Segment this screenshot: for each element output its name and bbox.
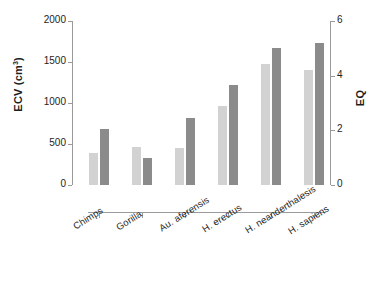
bar-ecv [218, 106, 227, 185]
bar-ecv [304, 70, 313, 185]
chart-figure: ECV (cm3) EQ 0500100015002000 0246 Chimp… [0, 0, 390, 305]
x-axis-category-label: H. neanderthalesis [243, 183, 318, 235]
y-axis-left-title: ECV (cm3) [12, 44, 25, 124]
bar-eq [186, 118, 195, 185]
y-axis-right-title: EQ [354, 78, 366, 118]
y-axis-left-tick [68, 103, 72, 104]
y-axis-left-tick [68, 144, 72, 145]
bar-ecv [89, 153, 98, 185]
y-axis-left-tick-label: 0 [26, 178, 66, 189]
y-axis-left-title-tail: ) [12, 57, 24, 61]
bar-ecv [132, 147, 141, 185]
y-axis-right-spine [330, 21, 331, 185]
y-axis-left-tick-label: 1500 [26, 55, 66, 66]
y-axis-right-tick [331, 185, 335, 186]
y-axis-left-tick-label: 500 [26, 137, 66, 148]
y-axis-right-tick [331, 130, 335, 131]
y-axis-right-tick [331, 21, 335, 22]
y-axis-left-title-superscript: 3 [12, 61, 19, 65]
bar-eq [272, 48, 281, 185]
y-axis-left-tick-label: 2000 [26, 14, 66, 25]
y-axis-left-tick [68, 185, 72, 186]
y-axis-right-tick-label: 2 [337, 123, 359, 134]
bar-eq [315, 43, 324, 185]
y-axis-left-tick-label: 1000 [26, 96, 66, 107]
y-axis-right-tick [331, 76, 335, 77]
y-axis-right-tick-label: 4 [337, 69, 359, 80]
bar-eq [143, 158, 152, 185]
bar-eq [100, 129, 109, 185]
bar-ecv [261, 64, 270, 185]
x-axis-category-label: H. erectus [200, 202, 243, 235]
y-axis-left-title-main: ECV (cm [12, 65, 24, 112]
y-axis-left-tick [68, 21, 72, 22]
bar-ecv [175, 148, 184, 185]
plot-area [73, 21, 330, 185]
bar-eq [229, 85, 238, 185]
x-axis-spine [88, 212, 326, 213]
y-axis-left-tick [68, 62, 72, 63]
y-axis-right-tick-label: 0 [337, 178, 359, 189]
y-axis-right-tick-label: 6 [337, 14, 359, 25]
